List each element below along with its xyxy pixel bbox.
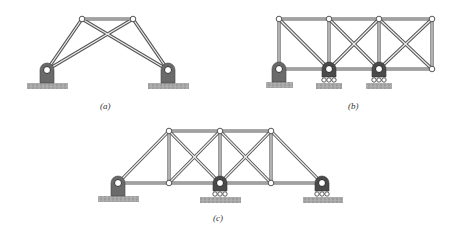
- roller-support-b-2: [366, 62, 392, 89]
- truss-figure: [0, 0, 460, 247]
- pin-support-a-left: [27, 63, 68, 89]
- pin-support-c: [98, 176, 139, 202]
- caption-a: (a): [100, 101, 111, 111]
- pin-support-b: [266, 62, 293, 88]
- roller-support-c-mid: [200, 176, 241, 203]
- roller-support-c-right: [303, 176, 343, 203]
- caption-c: (c): [213, 213, 223, 223]
- truss-b: [279, 19, 432, 69]
- pin-support-a-right: [148, 63, 189, 89]
- caption-b: (b): [348, 101, 359, 111]
- roller-support-b-1: [316, 62, 342, 89]
